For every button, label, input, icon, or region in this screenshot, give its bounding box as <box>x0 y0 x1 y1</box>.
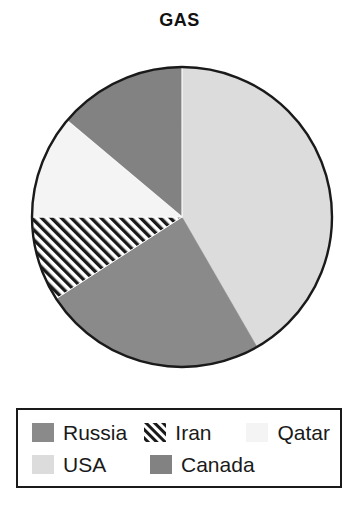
legend-swatch-usa <box>32 455 54 474</box>
legend-item-usa[interactable]: USA <box>32 454 150 475</box>
pie-chart-figure: GAS Russia <box>0 0 359 520</box>
pie-chart-canvas <box>0 40 359 400</box>
legend-swatch-canada <box>150 455 172 474</box>
legend-swatch-qatar <box>246 423 268 442</box>
legend-label-canada: Canada <box>181 454 255 475</box>
legend-label-russia: Russia <box>63 422 127 443</box>
chart-title: GAS <box>0 10 359 31</box>
legend-item-canada[interactable]: Canada <box>150 454 300 475</box>
chart-legend: Russia Iran Qatar USA <box>16 408 342 488</box>
legend-item-qatar[interactable]: Qatar <box>244 422 330 443</box>
legend-row: USA Canada <box>32 448 330 480</box>
legend-item-russia[interactable]: Russia <box>32 422 144 443</box>
legend-swatch-russia <box>32 423 54 442</box>
legend-label-usa: USA <box>63 454 106 475</box>
legend-swatch-iran <box>144 423 166 442</box>
legend-item-iran[interactable]: Iran <box>144 422 244 443</box>
legend-label-qatar: Qatar <box>277 422 330 443</box>
legend-label-iran: Iran <box>175 422 211 443</box>
pie-slices <box>32 67 332 367</box>
legend-row: Russia Iran Qatar <box>32 416 330 448</box>
